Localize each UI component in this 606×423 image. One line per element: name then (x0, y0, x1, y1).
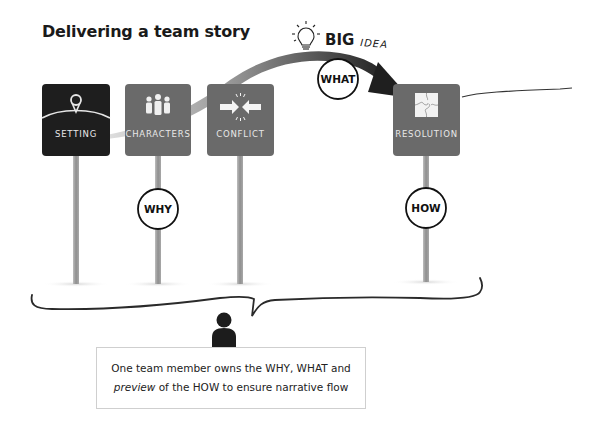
people-icon (146, 94, 170, 115)
sign-label-conflict: CONFLICT (216, 129, 265, 139)
what-badge: WHAT (318, 59, 358, 99)
sign-label-setting: SETTING (55, 129, 97, 139)
person-icon (212, 313, 236, 348)
lightbulb-icon (292, 21, 320, 49)
big-idea-heading: BIG IDEA (292, 21, 388, 50)
callout-preview-emphasis: preview (114, 381, 156, 393)
how-badge: HOW (406, 188, 446, 228)
sign-posts (42, 150, 460, 287)
svg-text:WHAT: WHAT (321, 73, 357, 85)
resolution-trail-line (462, 88, 572, 97)
callout-line-2-rest: of the HOW to ensure narrative flow (155, 381, 348, 393)
puzzle-icon (415, 93, 438, 117)
svg-text:WHY: WHY (144, 203, 172, 215)
sign-label-resolution: RESOLUTION (395, 129, 458, 139)
callout-line-2: preview of the HOW to ensure narrative f… (114, 378, 349, 397)
sign-resolution: RESOLUTION (393, 84, 460, 156)
big-idea-idea-text: IDEA (360, 37, 389, 50)
sign-conflict: CONFLICT (207, 84, 274, 156)
why-badge: WHY (138, 189, 178, 229)
sign-characters: CHARACTERS (125, 84, 191, 156)
svg-text:HOW: HOW (411, 202, 441, 214)
sign-setting: SETTING (42, 84, 110, 156)
sign-label-characters: CHARACTERS (125, 129, 190, 139)
big-idea-big-text: BIG (325, 31, 354, 49)
callout-box: One team member owns the WHY, WHAT and p… (96, 347, 366, 409)
callout-line-1: One team member owns the WHY, WHAT and (111, 359, 351, 378)
